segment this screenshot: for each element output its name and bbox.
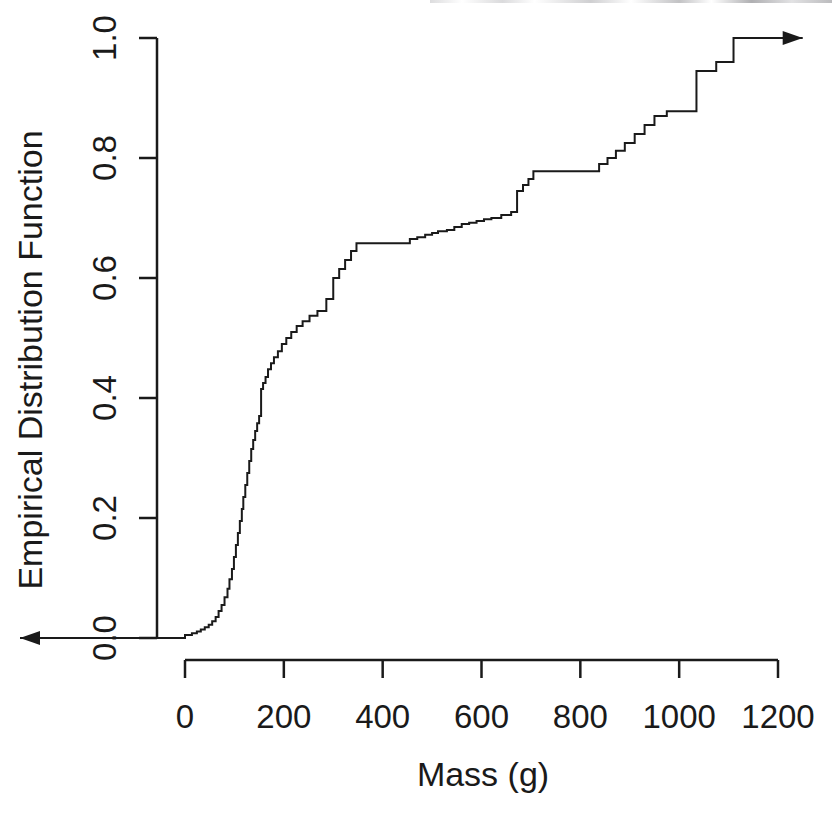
ecdf-step-curve <box>20 38 803 638</box>
x-tick-label: 1200 <box>741 698 814 736</box>
x-axis-ticks <box>185 660 778 678</box>
y-tick-label: 0.2 <box>86 495 124 541</box>
axis-spines <box>139 38 778 678</box>
y-axis-title: Empirical Distribution Function <box>11 130 50 589</box>
right-tail-arrow-icon <box>783 31 803 45</box>
x-tick-label: 600 <box>454 698 509 736</box>
y-tick-label: 0.0 <box>86 615 124 661</box>
x-tick-label: 1000 <box>642 698 715 736</box>
x-tick-label: 800 <box>553 698 608 736</box>
ecdf-figure: 020040060080010001200 0.00.20.40.60.81.0… <box>0 0 832 832</box>
y-tick-label: 0.6 <box>86 255 124 301</box>
x-axis-title: Mass (g) <box>417 755 549 794</box>
y-tick-label: 1.0 <box>86 15 124 61</box>
left-tail-arrow-icon <box>20 631 40 645</box>
y-tick-label: 0.4 <box>86 375 124 421</box>
x-tick-label: 0 <box>176 698 194 736</box>
y-tick-label: 0.8 <box>86 135 124 181</box>
ecdf-series-group <box>20 31 803 645</box>
y-axis-ticks <box>139 38 157 638</box>
x-tick-label: 400 <box>355 698 410 736</box>
x-tick-label: 200 <box>256 698 311 736</box>
